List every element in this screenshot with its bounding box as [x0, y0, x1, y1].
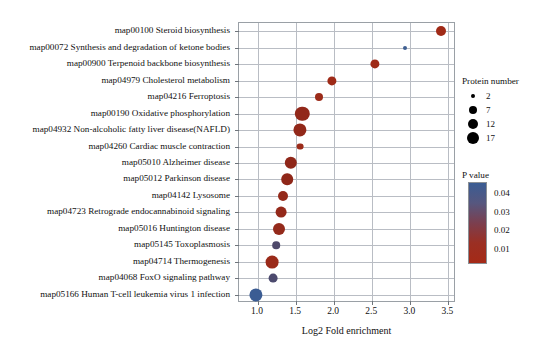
x-axis-tick-label: 1.0: [251, 306, 263, 316]
grid-line-horizontal: [239, 212, 454, 213]
data-point-bubble: [265, 255, 278, 268]
grid-line-horizontal: [239, 229, 454, 230]
grid-line-horizontal: [239, 245, 454, 246]
data-point-bubble: [295, 106, 309, 120]
data-point-bubble: [273, 223, 285, 235]
y-axis-label: map05016 Huntington disease: [0, 223, 230, 233]
y-axis-tick: [235, 97, 239, 98]
grid-line-horizontal: [239, 48, 454, 49]
protein-number-legend-title: Protein number: [462, 76, 537, 86]
x-axis-tick: [296, 301, 297, 305]
legend-size-label: 17: [486, 133, 495, 143]
y-axis-label: map05145 Toxoplasmosis: [0, 239, 230, 249]
y-axis-tick: [235, 114, 239, 115]
y-axis-tick: [235, 64, 239, 65]
p-value-legend-label: 0.02: [494, 225, 510, 235]
legend-dot-wrap: [462, 132, 484, 145]
data-point-bubble: [293, 123, 306, 136]
p-value-legend-title: P value: [462, 170, 537, 180]
protein-number-legend-item: 12: [462, 117, 537, 131]
y-axis-label: map00900 Terpenoid backbone biosynthesis: [0, 58, 230, 68]
grid-line-horizontal: [239, 31, 454, 32]
legend-size-dot: [471, 94, 475, 98]
y-axis-tick: [235, 278, 239, 279]
legend-size-label: 7: [486, 105, 491, 115]
grid-line-horizontal: [239, 64, 454, 65]
data-point-bubble: [436, 26, 446, 36]
y-axis-tick: [235, 179, 239, 180]
y-axis-tick: [235, 31, 239, 32]
y-axis-label: map04068 FoxO signaling pathway: [0, 272, 230, 282]
y-axis-label: map04932 Non-alcoholic fatty liver disea…: [0, 124, 230, 134]
p-value-legend-label: 0.01: [494, 244, 510, 254]
legend-size-dot: [468, 119, 479, 130]
protein-number-legend-item: 2: [462, 89, 537, 103]
legend-size-label: 2: [486, 91, 491, 101]
x-axis-tick-label: 2.0: [327, 306, 339, 316]
data-point-bubble: [315, 93, 323, 101]
protein-number-legend: Protein number 271217: [462, 76, 537, 145]
grid-line-horizontal: [239, 196, 454, 197]
y-axis-tick: [235, 212, 239, 213]
x-axis-tick: [448, 301, 449, 305]
y-axis-tick: [235, 130, 239, 131]
grid-line-horizontal: [239, 114, 454, 115]
grid-line-horizontal: [239, 97, 454, 98]
y-axis-label: map04979 Cholesterol metabolism: [0, 75, 230, 85]
y-axis-tick: [235, 81, 239, 82]
x-axis-tick-label: 3.0: [403, 306, 415, 316]
y-axis-tick: [235, 163, 239, 164]
x-axis-tick-label: 2.5: [365, 306, 377, 316]
grid-line-horizontal: [239, 295, 454, 296]
x-axis-tick: [258, 301, 259, 305]
y-axis-label: map04714 Thermogenesis: [0, 256, 230, 266]
y-axis-tick: [235, 147, 239, 148]
x-axis-tick: [372, 301, 373, 305]
data-point-bubble: [269, 274, 278, 283]
y-axis-label: map04142 Lysosome: [0, 190, 230, 200]
data-point-bubble: [370, 60, 379, 69]
p-value-legend-label: 0.04: [494, 188, 510, 198]
x-axis-tick-label: 1.5: [289, 306, 301, 316]
legend-dot-wrap: [462, 106, 484, 114]
legend-dot-wrap: [462, 94, 484, 98]
y-axis-label: map00072 Synthesis and degradation of ke…: [0, 42, 230, 52]
y-axis-label: map04216 Ferroptosis: [0, 91, 230, 101]
p-value-legend: P value 0.040.030.020.01: [462, 170, 537, 183]
y-axis-label: map04260 Cardiac muscle contraction: [0, 141, 230, 151]
bubble-plot-figure: map00100 Steroid biosynthesismap00072 Sy…: [0, 0, 537, 350]
y-axis-tick: [235, 229, 239, 230]
protein-number-legend-rows: 271217: [462, 89, 537, 145]
y-axis-label: map05010 Alzheimer disease: [0, 157, 230, 167]
data-point-bubble: [275, 207, 286, 218]
data-point-bubble: [249, 288, 262, 301]
data-point-bubble: [285, 157, 297, 169]
legend-dot-wrap: [462, 119, 484, 130]
data-point-bubble: [278, 191, 288, 201]
x-axis-title: Log2 Fold enrichment: [238, 325, 455, 336]
protein-number-legend-item: 17: [462, 131, 537, 145]
y-axis-label: map00190 Oxidative phosphorylation: [0, 108, 230, 118]
legend-size-dot: [467, 132, 480, 145]
data-point-bubble: [297, 143, 304, 150]
data-point-bubble: [281, 174, 293, 186]
y-axis-label: map04723 Retrograde endocannabinoid sign…: [0, 206, 230, 216]
data-point-bubble: [403, 46, 407, 50]
legend-size-dot: [469, 106, 477, 114]
grid-line-horizontal: [239, 179, 454, 180]
p-value-legend-label: 0.03: [494, 207, 510, 217]
y-axis-tick: [235, 245, 239, 246]
grid-line-horizontal: [239, 81, 454, 82]
y-axis-tick: [235, 196, 239, 197]
protein-number-legend-item: 7: [462, 103, 537, 117]
x-axis-tick: [334, 301, 335, 305]
grid-line-horizontal: [239, 130, 454, 131]
x-axis-tick-label: 3.5: [441, 306, 453, 316]
legend-size-label: 12: [486, 119, 495, 129]
p-value-colorbar: [468, 182, 487, 264]
y-axis-tick: [235, 295, 239, 296]
y-axis-label: map05012 Parkinson disease: [0, 173, 230, 183]
y-axis-tick: [235, 262, 239, 263]
plot-area: [238, 22, 455, 302]
grid-line-horizontal: [239, 147, 454, 148]
